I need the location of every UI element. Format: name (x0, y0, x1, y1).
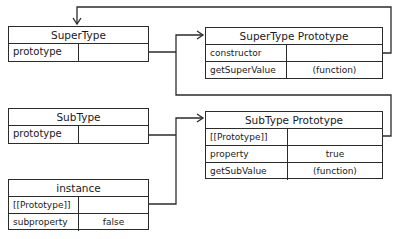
row-value (79, 126, 148, 143)
supertype-prototype-title: SuperType Prototype (206, 28, 382, 45)
instance-title: instance (9, 180, 148, 197)
instance-box: instance [[Prototype]] subproperty false (8, 179, 149, 230)
subtype-prototype-row-prototype: [[Prototype]] (206, 129, 382, 146)
arrowhead-supertype-prototype (197, 31, 203, 39)
subtype-box: SubType prototype (8, 108, 149, 144)
row-key: prototype (9, 44, 79, 61)
subtype-prototype-box: SubType Prototype [[Prototype]] property… (205, 111, 383, 179)
subtype-prototype-row-getsubvalue: getSubValue (function) (206, 163, 382, 180)
supertype-prototype-row-constructor: constructor (206, 45, 382, 62)
row-key: property (206, 146, 288, 162)
row-key: constructor (206, 45, 287, 61)
row-value: true (288, 146, 382, 162)
subtype-prototype-row-property: property true (206, 146, 382, 163)
supertype-box: SuperType prototype (8, 26, 149, 62)
row-key: getSuperValue (206, 62, 287, 79)
row-value: false (79, 214, 148, 231)
supertype-title: SuperType (9, 27, 148, 44)
row-key: [[Prototype]] (206, 129, 288, 145)
arrowhead-supertype (73, 18, 81, 24)
row-value: (function) (287, 62, 382, 79)
row-key: subproperty (9, 214, 79, 231)
row-key: prototype (9, 126, 79, 143)
row-value (79, 44, 148, 61)
subtype-title: SubType (9, 109, 148, 126)
supertype-row-prototype: prototype (9, 44, 148, 61)
row-value (288, 129, 382, 145)
subtype-prototype-title: SubType Prototype (206, 112, 382, 129)
row-value: (function) (288, 163, 382, 180)
supertype-prototype-row-getsupervalue: getSuperValue (function) (206, 62, 382, 79)
row-value (287, 45, 382, 61)
instance-row-prototype: [[Prototype]] (9, 197, 148, 214)
instance-row-subproperty: subproperty false (9, 214, 148, 231)
supertype-prototype-box: SuperType Prototype constructor getSuper… (205, 27, 383, 79)
subtype-row-prototype: prototype (9, 126, 148, 143)
row-key: getSubValue (206, 163, 288, 180)
row-value (79, 197, 148, 213)
arrowhead-subtype-prototype (197, 114, 203, 122)
row-key: [[Prototype]] (9, 197, 79, 213)
